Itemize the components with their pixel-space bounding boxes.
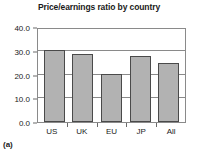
bar-jp <box>130 56 151 122</box>
x-label-us: US <box>41 127 62 136</box>
x-label-eu: EU <box>101 127 122 136</box>
bar-eu <box>101 74 122 122</box>
bar-all <box>158 63 179 122</box>
y-tick-label: 40.0 <box>14 24 30 33</box>
y-tick-label: 0.0 <box>19 119 30 128</box>
bar-uk <box>72 54 93 122</box>
figure-caption: (a) <box>3 140 13 149</box>
y-tick-label: 30.0 <box>14 47 30 56</box>
bar-us <box>44 50 65 122</box>
figure-panel: Price/earnings ratio by country 0.010.02… <box>0 0 198 157</box>
x-axis-labels: USUKEUJPAll <box>37 127 186 136</box>
y-tick-label: 20.0 <box>14 71 30 80</box>
x-label-uk: UK <box>71 127 92 136</box>
y-tick-label: 10.0 <box>14 95 30 104</box>
bar-series <box>38 29 185 122</box>
plot-area <box>37 28 186 123</box>
y-axis: 0.010.020.030.040.0 <box>0 28 37 123</box>
chart-title: Price/earnings ratio by country <box>0 2 198 12</box>
x-label-jp: JP <box>131 127 152 136</box>
x-label-all: All <box>161 127 182 136</box>
